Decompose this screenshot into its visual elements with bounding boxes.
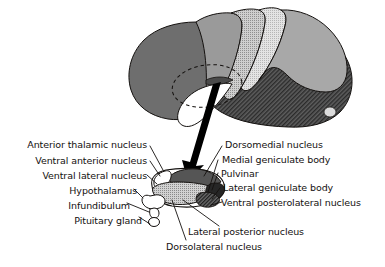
label-ventral-anterior-nucleus: Ventral anterior nucleus <box>35 155 147 166</box>
leader-dorsomedial-nucleus <box>204 146 222 176</box>
brain-occipital-spot <box>324 107 336 117</box>
leader-anterior-thalamic-nucleus <box>150 146 163 170</box>
part-infundibulum <box>150 208 159 218</box>
part-pituitary-gland <box>149 218 160 227</box>
label-lateral-geniculate-body: Lateral geniculate body <box>223 182 333 193</box>
brain-illustration <box>129 8 352 127</box>
label-ventral-lateral-nucleus: Ventral lateral nucleus <box>42 170 147 181</box>
label-lateral-posterior-nucleus: Lateral posterior nucleus <box>188 226 304 237</box>
leader-ventral-anterior-nucleus <box>150 161 160 176</box>
label-hypothalamus: Hypothalamus <box>69 185 137 196</box>
label-infundibulum: Infundibulum <box>68 200 130 211</box>
label-dorsomedial-nucleus: Dorsomedial nucleus <box>225 139 323 150</box>
label-pulvinar: Pulvinar <box>221 168 258 179</box>
label-dorsolateral-nucleus: Dorsolateral nucleus <box>166 241 262 252</box>
figure-canvas: Anterior thalamic nucleus Ventral anteri… <box>0 0 385 267</box>
part-geniculate-bodies <box>196 192 220 207</box>
part-hypothalamus <box>142 195 165 209</box>
label-pituitary-gland: Pituitary gland <box>74 215 142 226</box>
label-ventral-posterolateral-nucleus: Ventral posterolateral nucleus <box>221 197 361 208</box>
label-anterior-thalamic-nucleus: Anterior thalamic nucleus <box>27 139 147 150</box>
label-medial-geniculate-body: Medial geniculate body <box>222 154 330 165</box>
